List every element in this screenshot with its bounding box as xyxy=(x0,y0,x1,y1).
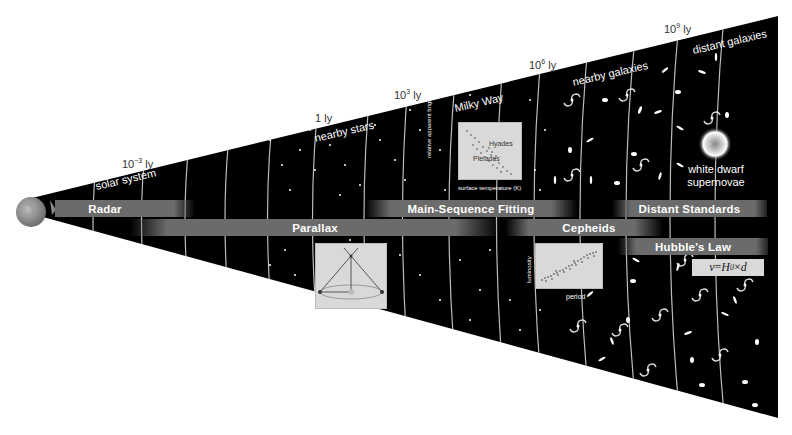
hr-y-axis-label: relative apparent brightness xyxy=(426,98,433,158)
parallax-geometry xyxy=(316,244,386,308)
distance-marker-1ly: 1 ly xyxy=(315,112,332,124)
hr-x-axis-label: surface temperature (K) xyxy=(458,185,521,191)
cepheid-y-axis-label: luminosity xyxy=(526,256,532,283)
standard-candle-caption: white dwarf supernovae xyxy=(680,163,752,189)
hr-scatter xyxy=(459,123,521,179)
distance-ladder-diagram: 10−3 ly 1 ly 103 ly 106 ly 109 ly solar … xyxy=(0,0,792,435)
method-bar-main-sequence: Main-Sequence Fitting xyxy=(365,200,577,217)
method-bar-cepheids: Cepheids xyxy=(505,219,663,236)
period-luminosity-scatter xyxy=(536,244,602,288)
distance-marker-1e9ly: 109 ly xyxy=(664,22,691,35)
cepheid-x-axis-label: period xyxy=(566,293,585,300)
distance-marker-1e6ly: 106 ly xyxy=(529,58,556,71)
supernova-icon xyxy=(698,127,732,161)
method-bar-parallax: Parallax xyxy=(130,219,500,236)
pleiades-label: Pleiades xyxy=(473,155,500,162)
hyades-label: Hyades xyxy=(489,140,513,147)
distance-marker-1e3ly: 103 ly xyxy=(394,88,421,101)
cone-background xyxy=(0,0,792,435)
hr-diagram-inset: Hyades Pleiades xyxy=(458,122,522,180)
method-bar-radar: Radar xyxy=(55,200,195,217)
cepheid-inset xyxy=(535,243,603,289)
hubble-law-formula: v = H0 × d xyxy=(692,259,764,276)
method-bar-distant-standards: Distant Standards xyxy=(612,200,767,217)
method-bar-hubbles-law: Hubble's Law xyxy=(618,238,768,255)
parallax-inset xyxy=(315,243,387,309)
